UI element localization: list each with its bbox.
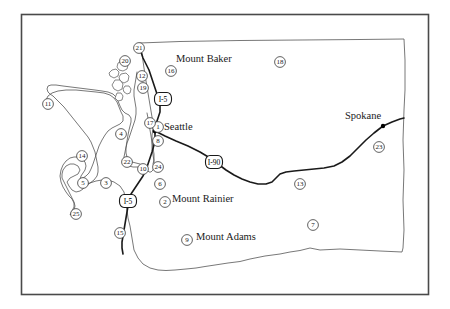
- shield-i5-south: I-5: [120, 195, 137, 208]
- marker-number: 17: [147, 119, 155, 127]
- marker-number: 20: [122, 57, 130, 65]
- marker-number: 25: [73, 210, 81, 218]
- shield-i5-north: I-5: [155, 93, 172, 106]
- marker-number: 18: [277, 58, 285, 66]
- marker-16[interactable]: 16: [166, 66, 177, 77]
- shield-label: I-5: [159, 95, 168, 104]
- place-label-mount-baker: Mount Baker: [176, 53, 232, 64]
- marker-number: 10: [140, 165, 148, 173]
- marker-5[interactable]: 5: [78, 178, 89, 189]
- marker-24[interactable]: 24: [153, 162, 164, 173]
- island-shape-d: [112, 80, 123, 91]
- spokane-city-dot: [381, 124, 385, 128]
- map-canvas: Mount BakerMount RainierMount AdamsSeatt…: [0, 0, 450, 309]
- marker-8[interactable]: 8: [153, 136, 164, 147]
- shield-i90: I-90: [206, 156, 223, 169]
- marker-number: 6: [158, 180, 162, 188]
- marker-number: 16: [168, 67, 176, 75]
- marker-number: 2: [163, 198, 167, 206]
- shield-label: I-90: [208, 158, 221, 167]
- marker-2[interactable]: 2: [160, 197, 171, 208]
- marker-22[interactable]: 22: [122, 157, 133, 168]
- marker-11[interactable]: 11: [43, 99, 54, 110]
- marker-6[interactable]: 6: [155, 179, 166, 190]
- marker-13[interactable]: 13: [295, 179, 306, 190]
- marker-number: 15: [117, 229, 125, 237]
- marker-19[interactable]: 19: [138, 83, 149, 94]
- marker-number: 7: [311, 221, 315, 229]
- city-label-seattle: Seattle: [164, 121, 193, 132]
- marker-14[interactable]: 14: [77, 151, 88, 162]
- marker-10[interactable]: 10: [138, 164, 149, 175]
- marker-number: 5: [81, 179, 85, 187]
- marker-4[interactable]: 4: [116, 129, 127, 140]
- marker-18[interactable]: 18: [275, 57, 286, 68]
- place-label-mount-adams: Mount Adams: [196, 231, 256, 242]
- marker-number: 19: [140, 84, 148, 92]
- marker-number: 3: [104, 179, 108, 187]
- marker-number: 21: [136, 44, 144, 52]
- marker-number: 24: [155, 163, 163, 171]
- marker-number: 23: [376, 143, 384, 151]
- marker-25[interactable]: 25: [71, 209, 82, 220]
- marker-21[interactable]: 21: [134, 43, 145, 54]
- marker-number: 14: [79, 152, 87, 160]
- shield-label: I-5: [124, 197, 133, 206]
- city-label-spokane: Spokane: [345, 110, 382, 121]
- marker-number: 11: [45, 100, 52, 108]
- marker-9[interactable]: 9: [182, 235, 193, 246]
- marker-number: 9: [185, 236, 189, 244]
- place-label-mount-rainier: Mount Rainier: [172, 193, 234, 204]
- marker-7[interactable]: 7: [308, 220, 319, 231]
- marker-number: 22: [124, 158, 132, 166]
- marker-number: 8: [156, 137, 160, 145]
- island-shape-b: [109, 69, 119, 78]
- marker-20[interactable]: 20: [120, 56, 131, 67]
- marker-15[interactable]: 15: [115, 228, 126, 239]
- marker-number: 12: [139, 72, 147, 80]
- marker-number: 4: [119, 130, 123, 138]
- marker-23[interactable]: 23: [374, 142, 385, 153]
- marker-17[interactable]: 17: [145, 118, 156, 129]
- washington-state-map-figure: Mount BakerMount RainierMount AdamsSeatt…: [0, 0, 450, 309]
- marker-3[interactable]: 3: [101, 178, 112, 189]
- marker-number: 1: [156, 123, 160, 131]
- marker-12[interactable]: 12: [137, 71, 148, 82]
- marker-number: 13: [297, 180, 305, 188]
- island-shape-e: [123, 86, 131, 94]
